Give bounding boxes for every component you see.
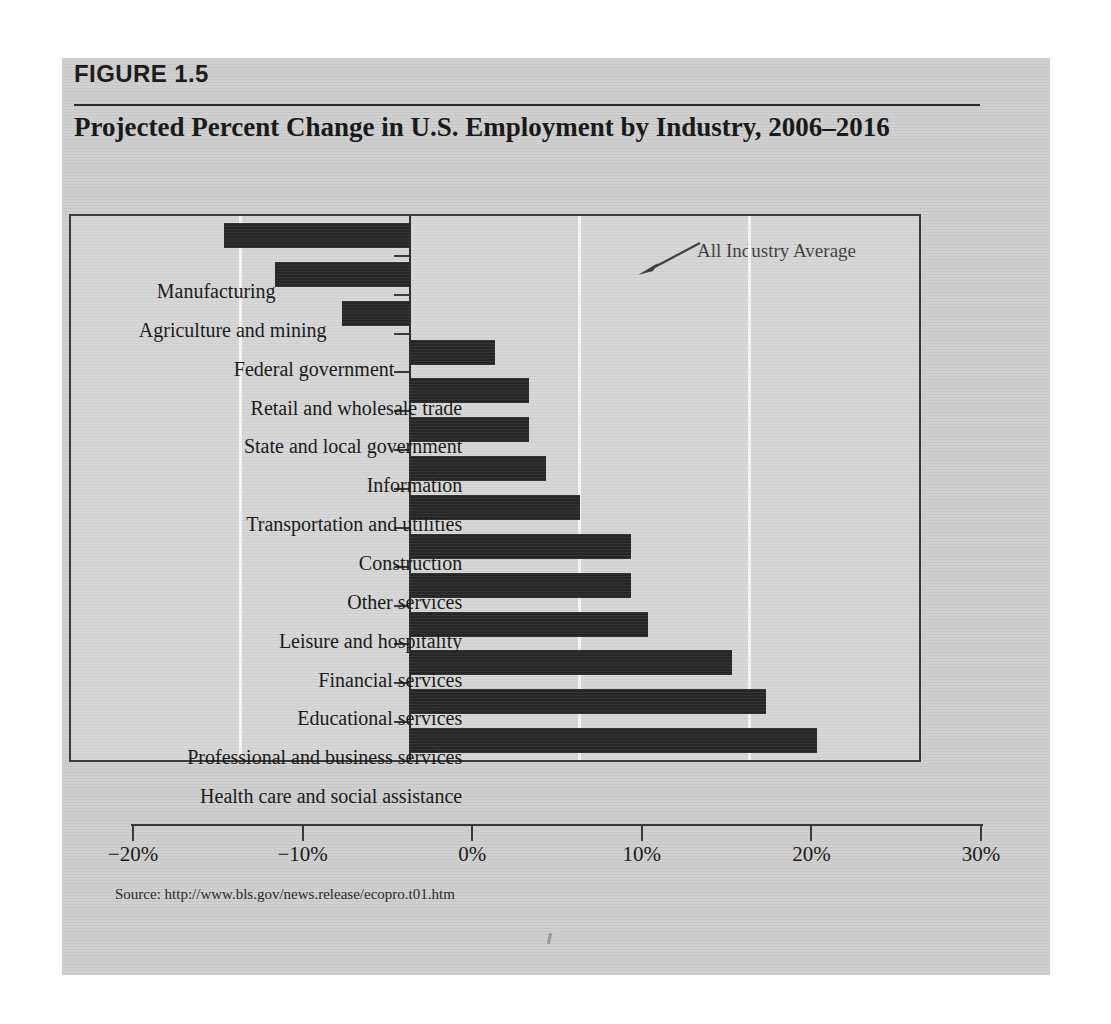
category-label: Retail and wholesale trade bbox=[131, 396, 462, 421]
x-axis-tick-label: 10% bbox=[623, 842, 662, 867]
x-axis-tick-label: 20% bbox=[792, 842, 831, 867]
header-divider-rule bbox=[74, 104, 980, 106]
figure-number-label: FIGURE 1.5 bbox=[74, 60, 209, 88]
category-label: Leisure and hospitality bbox=[131, 629, 462, 654]
category-label: State and local government bbox=[131, 434, 462, 459]
figure-title: Projected Percent Change in U.S. Employm… bbox=[74, 112, 890, 143]
category-label: Information bbox=[131, 473, 462, 498]
category-label: Agriculture and mining bbox=[131, 318, 327, 343]
source-note: Source: http://www.bls.gov/news.release/… bbox=[115, 886, 455, 903]
x-axis-tick-label: 0% bbox=[458, 842, 486, 867]
figure-screenshot: FIGURE 1.5 Projected Percent Change in U… bbox=[0, 0, 1111, 1024]
x-axis-tick bbox=[302, 826, 304, 841]
category-label: Professional and business services bbox=[131, 745, 462, 770]
category-label: Construction bbox=[131, 551, 462, 576]
x-axis-tick-label: −20% bbox=[108, 842, 158, 867]
category-label: Financial services bbox=[131, 668, 462, 693]
category-label-layer: ManufacturingAgriculture and miningFeder… bbox=[131, 272, 471, 820]
x-axis-tick bbox=[980, 826, 982, 841]
bar bbox=[410, 728, 817, 753]
x-axis-tick bbox=[471, 826, 473, 841]
x-axis-tick-label: −10% bbox=[277, 842, 327, 867]
category-tick bbox=[394, 255, 410, 257]
category-label: Health care and social assistance bbox=[131, 784, 462, 809]
category-label: Educational services bbox=[131, 706, 462, 731]
x-axis-tick-label: 30% bbox=[962, 842, 1001, 867]
x-axis-tick bbox=[810, 826, 812, 841]
category-label: Other services bbox=[131, 590, 462, 615]
category-label: Manufacturing bbox=[131, 279, 276, 304]
x-axis-tick bbox=[641, 826, 643, 841]
category-label: Federal government bbox=[131, 357, 394, 382]
gridline-20 bbox=[748, 216, 751, 760]
x-axis-tick bbox=[132, 826, 134, 841]
bar bbox=[224, 223, 411, 248]
category-label: Transportation and utilities bbox=[131, 512, 462, 537]
gridline-10 bbox=[578, 216, 581, 760]
x-axis-line bbox=[131, 824, 983, 826]
